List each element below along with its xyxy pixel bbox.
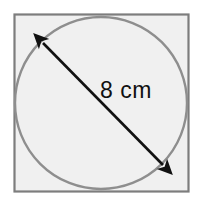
diameter-label: 8 cm [100,77,152,103]
figure-canvas: 8 cm [0,0,203,206]
geometry-figure: 8 cm [0,0,203,206]
